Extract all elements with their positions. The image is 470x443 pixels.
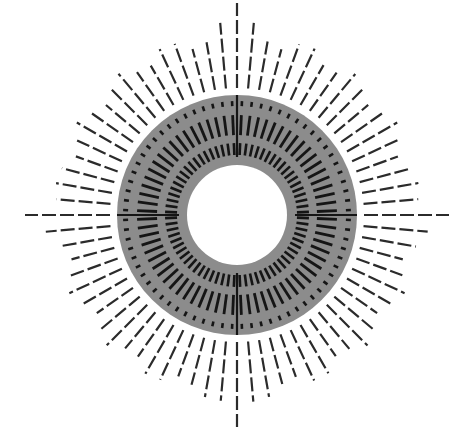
ring-dash-outer-ticks	[193, 110, 195, 115]
center-disc	[187, 165, 287, 265]
ring-dash-outer-ticks	[341, 181, 346, 183]
ring-dash-outer-ticks	[128, 181, 133, 183]
ring-dash-outer-ticks	[345, 229, 350, 230]
ring-dash-outer-ticks	[279, 316, 281, 321]
ring-dash-outer-ticks	[128, 248, 133, 250]
ring-dash-inner	[228, 274, 230, 286]
ring-dash-outer-ticks	[132, 171, 137, 173]
ring-dash-inner	[165, 218, 177, 219]
ring-dash-middle	[240, 295, 241, 315]
ring-dash-middle	[317, 218, 337, 219]
ring-dash-outer-ticks	[343, 190, 348, 191]
sunburst-graphic	[0, 0, 470, 443]
ring-dash-outer-ticks	[132, 257, 137, 259]
ring-dash-outer-ticks	[203, 106, 205, 111]
ring-dash-inner	[165, 212, 177, 213]
ring-dash-outer-ticks	[345, 200, 350, 201]
ring-dash-middle	[233, 295, 234, 315]
ring-dash-inner	[296, 206, 308, 208]
ring-dash-inner	[245, 274, 247, 286]
ring-dash-inner	[297, 218, 309, 219]
ring-dash-inner	[297, 212, 309, 213]
ring-dash-inner	[234, 143, 235, 155]
ring-dash-inner	[240, 275, 241, 287]
radial-artwork	[0, 0, 470, 443]
ring-dash-middle	[240, 115, 241, 135]
ring-dash-outer-ticks	[124, 229, 129, 230]
ring-dash-outer-ticks	[203, 319, 205, 324]
ring-dash-outer-ticks	[222, 323, 223, 328]
ring-dash-outer-ticks	[338, 257, 343, 259]
ring-dash-outer-ticks	[270, 106, 272, 111]
ring-dash-outer-ticks	[261, 104, 262, 109]
ring-dash-outer-ticks	[126, 239, 131, 240]
ring-dash-middle	[317, 211, 337, 212]
ring-dash-outer-ticks	[126, 190, 131, 191]
ring-dash-inner	[245, 144, 247, 156]
ring-dash-inner	[296, 223, 308, 225]
ring-dash-inner	[228, 144, 230, 156]
ring-dash-middle	[233, 115, 234, 135]
ring-dash-outer-ticks	[124, 200, 129, 201]
ring-dash-outer-ticks	[251, 102, 252, 107]
ring-dash-outer-ticks	[338, 171, 343, 173]
ring-dash-outer-ticks	[270, 319, 272, 324]
ring-dash-outer-ticks	[261, 321, 262, 326]
ring-dash-outer-ticks	[279, 110, 281, 115]
ring-dash-inner	[234, 275, 235, 287]
ring-dash-outer-ticks	[341, 248, 346, 250]
ring-dash-inner	[240, 143, 241, 155]
ring-dash-inner	[166, 223, 178, 225]
ring-dash-outer-ticks	[251, 323, 252, 328]
ring-dash-middle	[137, 218, 157, 219]
ring-dash-outer-ticks	[212, 321, 213, 326]
ring-dash-middle	[137, 211, 157, 212]
ring-dash-outer-ticks	[222, 102, 223, 107]
ring-dash-outer-ticks	[193, 316, 195, 321]
ring-dash-outer-ticks	[212, 104, 213, 109]
ring-dash-outer-ticks	[343, 239, 348, 240]
ring-dash-inner	[166, 206, 178, 208]
